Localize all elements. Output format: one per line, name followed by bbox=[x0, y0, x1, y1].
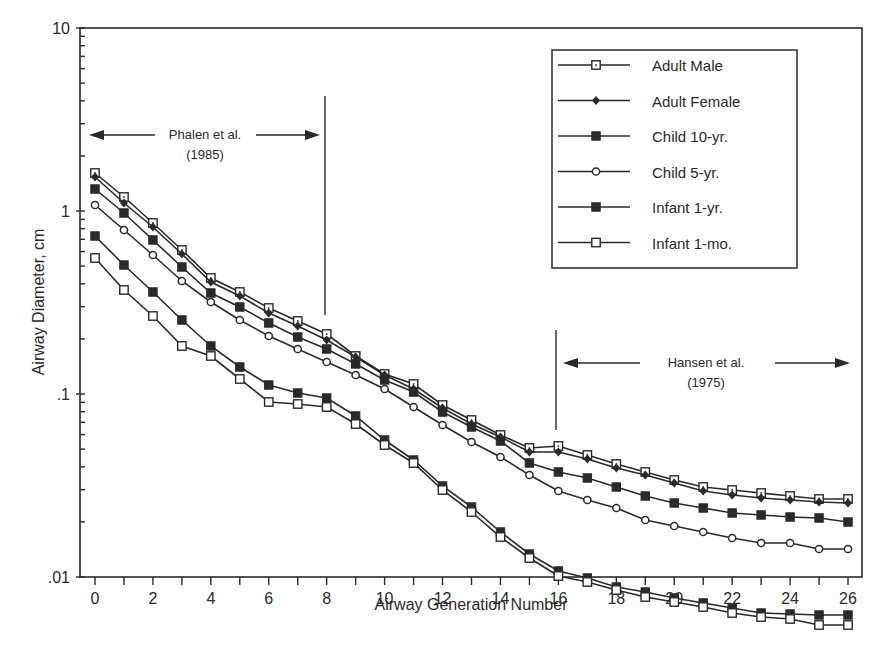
x-tick-label: 6 bbox=[264, 590, 273, 607]
filled-square-marker-icon bbox=[592, 203, 600, 211]
left-arrowhead-icon bbox=[563, 358, 578, 368]
open-circle-marker-icon bbox=[700, 528, 707, 535]
filled-square-marker-icon bbox=[236, 363, 244, 371]
filled-square-marker-icon bbox=[554, 468, 562, 476]
filled-square-marker-icon bbox=[728, 509, 736, 517]
y-tick-label: .01 bbox=[48, 569, 70, 586]
open-square-marker-icon bbox=[525, 554, 533, 562]
filled-square-marker-icon bbox=[91, 232, 99, 240]
legend: Adult MaleAdult FemaleChild 10-yr.Child … bbox=[552, 50, 797, 268]
open-square-marker-icon bbox=[592, 238, 600, 246]
open-circle-marker-icon bbox=[236, 316, 243, 323]
hansen-year: (1975) bbox=[687, 375, 725, 390]
open-circle-marker-icon bbox=[149, 251, 156, 258]
open-square-marker-icon bbox=[438, 486, 446, 494]
open-square-marker-icon bbox=[728, 609, 736, 617]
legend-label: Child 10-yr. bbox=[652, 128, 728, 145]
open-square-marker-icon bbox=[815, 621, 823, 629]
phalen-year: (1985) bbox=[186, 147, 224, 162]
filled-square-marker-icon bbox=[380, 376, 388, 384]
x-tick-label: 8 bbox=[322, 590, 331, 607]
open-circle-marker-icon bbox=[729, 534, 736, 541]
annotation-hansen: Hansen et al.(1975) bbox=[556, 330, 850, 430]
x-tick-label: 26 bbox=[839, 590, 857, 607]
x-tick-label: 4 bbox=[206, 590, 215, 607]
open-square-marker-icon bbox=[467, 508, 475, 516]
open-circle-marker-icon bbox=[439, 421, 446, 428]
filled-square-marker-icon bbox=[178, 263, 186, 271]
open-square-marker-icon bbox=[265, 398, 273, 406]
y-tick-label: 10 bbox=[52, 20, 70, 37]
open-circle-marker-icon bbox=[584, 496, 591, 503]
open-square-marker-icon bbox=[612, 586, 620, 594]
right-arrowhead-icon bbox=[835, 358, 850, 368]
filled-square-marker-icon bbox=[207, 289, 215, 297]
open-square-marker-icon bbox=[351, 420, 359, 428]
legend-label: Child 5-yr. bbox=[652, 164, 720, 181]
marker-dot-icon bbox=[326, 333, 328, 335]
filled-square-marker-icon bbox=[149, 236, 157, 244]
open-circle-marker-icon bbox=[844, 545, 851, 552]
open-circle-marker-icon bbox=[758, 539, 765, 546]
open-circle-marker-icon bbox=[555, 487, 562, 494]
phalen-label: Phalen et al. bbox=[169, 127, 241, 142]
open-circle-marker-icon bbox=[497, 453, 504, 460]
filled-square-marker-icon bbox=[592, 132, 600, 140]
filled-square-marker-icon bbox=[815, 611, 823, 619]
hansen-label: Hansen et al. bbox=[668, 355, 745, 370]
filled-square-marker-icon bbox=[670, 499, 678, 507]
x-axis-label: Airway Generation Number bbox=[375, 596, 569, 613]
filled-square-marker-icon bbox=[815, 514, 823, 522]
filled-square-marker-icon bbox=[322, 394, 330, 402]
right-arrowhead-icon bbox=[305, 130, 320, 140]
open-square-marker-icon bbox=[91, 254, 99, 262]
y-tick-label: .1 bbox=[57, 386, 70, 403]
filled-square-marker-icon bbox=[844, 611, 852, 619]
open-circle-marker-icon bbox=[468, 438, 475, 445]
open-circle-marker-icon bbox=[178, 277, 185, 284]
open-square-marker-icon bbox=[120, 286, 128, 294]
x-tick-label: 2 bbox=[148, 590, 157, 607]
filled-square-marker-icon bbox=[699, 504, 707, 512]
marker-dot-icon bbox=[595, 64, 597, 66]
filled-square-marker-icon bbox=[641, 492, 649, 500]
open-square-marker-icon bbox=[149, 312, 157, 320]
open-circle-marker-icon bbox=[526, 471, 533, 478]
filled-square-marker-icon bbox=[149, 288, 157, 296]
open-square-marker-icon bbox=[583, 578, 591, 586]
filled-square-marker-icon bbox=[265, 319, 273, 327]
open-circle-marker-icon bbox=[410, 403, 417, 410]
open-circle-marker-icon bbox=[120, 226, 127, 233]
legend-label: Infant 1-yr. bbox=[652, 199, 723, 216]
legend-label: Adult Male bbox=[652, 57, 723, 74]
filled-square-marker-icon bbox=[525, 459, 533, 467]
filled-square-marker-icon bbox=[322, 345, 330, 353]
filled-square-marker-icon bbox=[786, 513, 794, 521]
filled-square-marker-icon bbox=[294, 333, 302, 341]
open-circle-marker-icon bbox=[323, 358, 330, 365]
open-square-marker-icon bbox=[409, 459, 417, 467]
legend-label: Infant 1-mo. bbox=[652, 235, 732, 252]
filled-square-marker-icon bbox=[351, 360, 359, 368]
filled-square-marker-icon bbox=[207, 342, 215, 350]
open-square-marker-icon bbox=[641, 593, 649, 601]
open-circle-marker-icon bbox=[91, 201, 98, 208]
open-circle-marker-icon bbox=[294, 345, 301, 352]
open-square-marker-icon bbox=[554, 572, 562, 580]
filled-square-marker-icon bbox=[351, 412, 359, 420]
open-square-marker-icon bbox=[294, 400, 302, 408]
open-circle-marker-icon bbox=[786, 539, 793, 546]
open-square-marker-icon bbox=[496, 533, 504, 541]
filled-square-marker-icon bbox=[583, 474, 591, 482]
filled-square-marker-icon bbox=[467, 423, 475, 431]
filled-square-marker-icon bbox=[612, 483, 620, 491]
open-square-marker-icon bbox=[178, 342, 186, 350]
filled-square-marker-icon bbox=[178, 316, 186, 324]
open-circle-marker-icon bbox=[207, 298, 214, 305]
open-square-marker-icon bbox=[844, 621, 852, 629]
open-circle-marker-icon bbox=[592, 168, 599, 175]
legend-label: Adult Female bbox=[652, 93, 740, 110]
filled-square-marker-icon bbox=[91, 185, 99, 193]
open-circle-marker-icon bbox=[642, 516, 649, 523]
open-square-marker-icon bbox=[699, 603, 707, 611]
